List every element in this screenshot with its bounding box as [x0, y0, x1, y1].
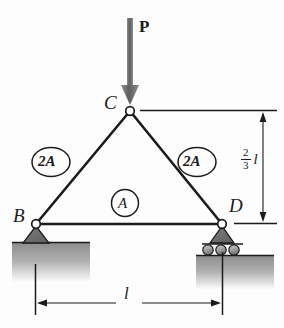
load-arrow-p: [121, 18, 139, 105]
truss-diagram: B C D P 2A 2A A 2 3 l l: [0, 0, 284, 328]
dimension-height-symbol: l: [254, 152, 258, 167]
dim-arrow-down: [260, 212, 267, 222]
fraction-denominator: 3: [241, 159, 251, 172]
load-label-p: P: [139, 18, 149, 35]
member-area-label-cd: 2A: [183, 154, 201, 169]
node-label-b: B: [13, 206, 25, 225]
dim-arrow-left: [37, 300, 47, 307]
dim-arrow-up: [260, 112, 267, 122]
fraction-numerator: 2: [241, 147, 251, 159]
ground-right: [196, 256, 274, 291]
member-area-label-bd: A: [118, 196, 127, 211]
fraction-two-thirds: 2 3: [241, 147, 251, 171]
dimension-height-label: 2 3 l: [241, 147, 258, 171]
member-cd: [130, 111, 222, 224]
dim-arrow-right: [211, 300, 221, 307]
node-label-c: C: [104, 93, 117, 112]
ground-left: [12, 243, 90, 284]
joint-d: [218, 220, 227, 229]
node-label-d: D: [229, 196, 243, 215]
dimension-span-label: l: [124, 285, 129, 302]
joint-c: [126, 107, 135, 116]
member-area-label-bc: 2A: [38, 154, 56, 169]
joint-b: [32, 220, 41, 229]
roller-support-d: [202, 226, 243, 255]
roller-wheels: [203, 245, 239, 255]
